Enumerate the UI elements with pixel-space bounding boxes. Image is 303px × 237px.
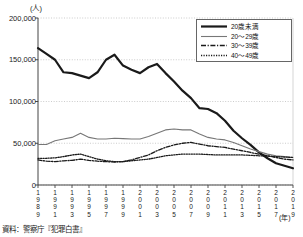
legend-swatch-20s bbox=[200, 32, 228, 41]
series-line-2 bbox=[38, 142, 293, 162]
legend-label-40s: 40～49歳 bbox=[231, 51, 259, 60]
legend-label-30s: 30～39歳 bbox=[231, 41, 259, 50]
legend-swatch-40s bbox=[200, 51, 228, 60]
legend-swatch-30s bbox=[200, 41, 228, 50]
legend-item-3: 40～49歳 bbox=[200, 51, 288, 61]
legend-label-20s: 20～29歳 bbox=[231, 32, 259, 41]
legend-item-1: 20～29歳 bbox=[200, 32, 288, 42]
legend-item-0: 20歳未満 bbox=[200, 22, 288, 32]
data-series bbox=[38, 48, 293, 168]
source-note: 資料：警察庁『犯罪白書』 bbox=[2, 223, 86, 234]
chart-legend: 20歳未満 20～29歳 30～39歳 40～49歳 bbox=[196, 19, 292, 62]
legend-label-under20: 20歳未満 bbox=[231, 22, 259, 31]
series-line-3 bbox=[38, 154, 293, 162]
legend-swatch-under20 bbox=[200, 22, 228, 31]
legend-item-2: 30～39歳 bbox=[200, 41, 288, 51]
